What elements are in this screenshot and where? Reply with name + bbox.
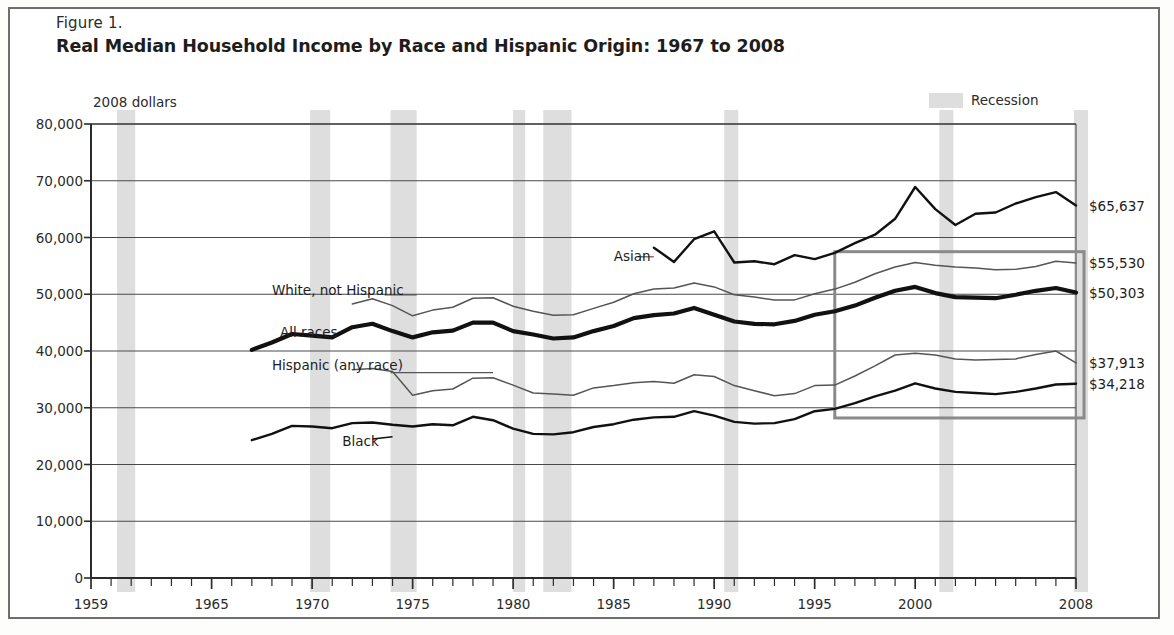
chart-canvas <box>0 0 1174 635</box>
figure-page: Figure 1. Real Median Household Income b… <box>0 0 1174 635</box>
series-line-white-not-hispanic <box>352 261 1076 316</box>
leader-line <box>372 437 392 439</box>
axis-ticks <box>84 124 1076 589</box>
gridlines <box>91 124 1076 578</box>
series-line-hispanic-any-race <box>352 351 1076 396</box>
